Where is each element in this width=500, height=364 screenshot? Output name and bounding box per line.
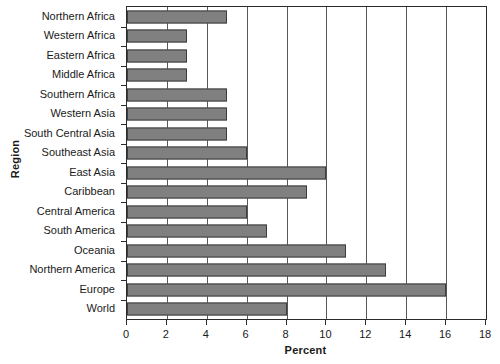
bar bbox=[127, 283, 446, 296]
x-axis-tick bbox=[405, 319, 406, 325]
bar bbox=[127, 49, 187, 62]
y-axis-tick-label: Western Africa bbox=[44, 29, 115, 41]
x-axis-tick bbox=[126, 319, 127, 325]
bar bbox=[127, 244, 346, 257]
y-axis-tick-label: Northern America bbox=[29, 263, 115, 275]
y-axis-minor-tick bbox=[121, 85, 127, 86]
gridline bbox=[406, 7, 407, 319]
bar bbox=[127, 166, 326, 179]
x-axis-tick bbox=[445, 319, 446, 325]
y-axis-tick-label: Southeast Asia bbox=[42, 146, 115, 158]
y-axis-tick-label: Eastern Africa bbox=[47, 49, 115, 61]
x-axis-tick-label: 4 bbox=[203, 328, 209, 340]
y-axis-tick-label: Middle Africa bbox=[52, 68, 115, 80]
bar bbox=[127, 108, 227, 121]
x-axis-tick bbox=[325, 319, 326, 325]
y-axis-minor-tick bbox=[121, 300, 127, 301]
y-axis-tick-labels: Northern AfricaWestern AfricaEastern Afr… bbox=[20, 6, 121, 318]
x-axis-tick-label: 18 bbox=[479, 328, 491, 340]
bar bbox=[127, 30, 187, 43]
x-axis-tick-label: 14 bbox=[399, 328, 411, 340]
x-axis-tick-label: 16 bbox=[439, 328, 451, 340]
y-axis-minor-tick bbox=[121, 241, 127, 242]
y-axis-minor-tick bbox=[121, 261, 127, 262]
bar bbox=[127, 88, 227, 101]
x-axis-tick bbox=[485, 319, 486, 325]
x-axis-tick-label: 12 bbox=[359, 328, 371, 340]
y-axis-tick-label: Caribbean bbox=[64, 185, 115, 197]
y-axis-tick-label: World bbox=[86, 302, 115, 314]
bar bbox=[127, 186, 307, 199]
x-axis-tick bbox=[206, 319, 207, 325]
bar bbox=[127, 69, 187, 82]
x-axis-tick-label: 6 bbox=[243, 328, 249, 340]
y-axis-tick-label: Western Asia bbox=[50, 107, 115, 119]
x-axis-tick bbox=[166, 319, 167, 325]
bar bbox=[127, 147, 247, 160]
x-axis-tick bbox=[365, 319, 366, 325]
x-axis-tick-label: 8 bbox=[282, 328, 288, 340]
gridline bbox=[446, 7, 447, 319]
y-axis-tick-label: South America bbox=[43, 224, 115, 236]
x-axis-tick-label: 0 bbox=[123, 328, 129, 340]
bar bbox=[127, 127, 227, 140]
x-axis-tick-label: 10 bbox=[319, 328, 331, 340]
x-axis-tick bbox=[286, 319, 287, 325]
plot-area bbox=[126, 6, 487, 320]
x-axis-tick bbox=[246, 319, 247, 325]
y-axis-minor-tick bbox=[121, 105, 127, 106]
y-axis-minor-tick bbox=[121, 27, 127, 28]
bar bbox=[127, 303, 287, 316]
y-axis-minor-tick bbox=[121, 46, 127, 47]
y-axis-minor-tick bbox=[121, 66, 127, 67]
y-axis-minor-tick bbox=[121, 222, 127, 223]
x-axis-title: Percent bbox=[126, 344, 485, 356]
bar bbox=[127, 225, 267, 238]
y-axis-minor-tick bbox=[121, 183, 127, 184]
bar bbox=[127, 264, 386, 277]
y-axis-tick-label: Oceania bbox=[74, 244, 115, 256]
y-axis-minor-tick bbox=[121, 124, 127, 125]
y-axis-minor-tick bbox=[121, 202, 127, 203]
bar bbox=[127, 205, 247, 218]
y-axis-minor-tick bbox=[121, 163, 127, 164]
y-axis-minor-tick bbox=[121, 144, 127, 145]
y-axis-tick-label: Central America bbox=[37, 205, 115, 217]
y-axis-tick-label: Europe bbox=[80, 283, 115, 295]
y-axis-tick-label: Southern Africa bbox=[40, 88, 115, 100]
x-axis-tick-label: 2 bbox=[163, 328, 169, 340]
y-axis-tick-label: East Asia bbox=[69, 166, 115, 178]
y-axis-tick-label: Northern Africa bbox=[42, 10, 115, 22]
bar-chart: Region Northern AfricaWestern AfricaEast… bbox=[0, 0, 500, 364]
bar bbox=[127, 10, 227, 23]
y-axis-tick-label: South Central Asia bbox=[24, 127, 115, 139]
y-axis-minor-tick bbox=[121, 280, 127, 281]
